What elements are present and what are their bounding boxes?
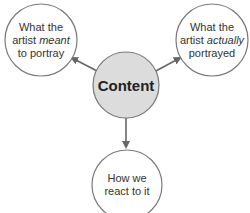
label-line: react to it xyxy=(104,185,149,198)
node-actually-label: What the artist actually portrayed xyxy=(176,4,248,76)
node-react-label: How we react to it xyxy=(92,150,162,213)
label-line: artist actually xyxy=(180,34,244,47)
label-line: How we xyxy=(107,172,146,185)
label-line: What the xyxy=(19,21,63,34)
label-line: to portray xyxy=(18,47,64,60)
label-line: artist meant xyxy=(12,34,69,47)
label-line: portrayed xyxy=(189,47,235,60)
center-label: Content xyxy=(93,52,159,118)
node-meant-label: What the artist meant to portray xyxy=(5,4,77,76)
label-line: What the xyxy=(190,21,234,34)
